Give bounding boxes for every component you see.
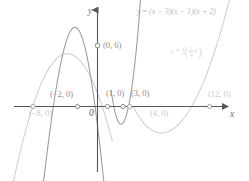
equation-open-paren: ( bbox=[184, 45, 188, 59]
origin-label: 0 bbox=[89, 109, 94, 119]
equation-fraction: 14 bbox=[189, 45, 194, 58]
equation-primary-equals: = bbox=[143, 7, 148, 16]
marker-3-0 bbox=[121, 104, 125, 108]
curve-primary bbox=[44, 27, 104, 181]
equation-primary: y = (x − 3)(x − 1)(x + 2) bbox=[137, 7, 216, 16]
marker-1-0 bbox=[106, 104, 110, 108]
point-label-4-0: (4, 0) bbox=[150, 109, 168, 118]
marker-4-0 bbox=[128, 104, 132, 108]
equation-transformed-equals: = bbox=[176, 46, 181, 55]
marker-0-6 bbox=[95, 43, 100, 48]
point-label-neg8-0: (−8, 0) bbox=[29, 109, 52, 118]
equation-transformed-prefix: y bbox=[170, 46, 174, 55]
curve-transformed-right bbox=[134, 0, 230, 133]
graph-figure: y x 0 (0, 6) (−2, 0) (1, 0) (3, 0) (−8, … bbox=[0, 0, 249, 181]
y-axis-label: y bbox=[88, 7, 92, 17]
x-axis-label: x bbox=[230, 110, 234, 120]
marker-neg2-0 bbox=[75, 104, 79, 108]
equation-close-paren: ) bbox=[198, 45, 202, 59]
fraction-denominator: 4 bbox=[189, 51, 194, 58]
equation-primary-prefix: y bbox=[137, 7, 141, 16]
marker-12-0 bbox=[208, 104, 212, 108]
equation-primary-body: (x − 3)(x − 1)(x + 2) bbox=[149, 7, 216, 16]
point-label-0-6: (0, 6) bbox=[103, 41, 121, 50]
point-label-1-0: (1, 0) bbox=[106, 89, 124, 98]
point-label-neg2-0: (−2, 0) bbox=[50, 90, 73, 99]
equation-transformed: y = f(14x) bbox=[170, 44, 202, 59]
curve-primary-right bbox=[111, 0, 140, 124]
point-label-12-0: (12, 0) bbox=[208, 90, 231, 99]
point-label-3-0: (3, 0) bbox=[131, 89, 149, 98]
